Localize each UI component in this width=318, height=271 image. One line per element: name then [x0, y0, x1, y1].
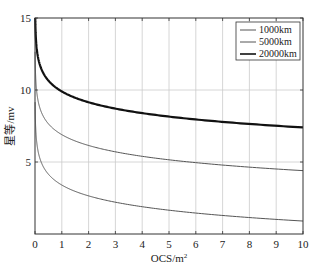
legend: 1000km 5000km 20000km: [236, 22, 300, 60]
x-tick-label: 7: [220, 238, 226, 250]
x-tick-label: 0: [32, 238, 38, 250]
chart: 012345678910 51015 OCS/m2 星等/mv 1000km 5…: [0, 0, 318, 271]
x-tick-label: 6: [193, 238, 199, 250]
x-tick-label: 3: [113, 238, 119, 250]
y-tick-label: 15: [20, 12, 32, 24]
x-tick-label: 10: [298, 238, 310, 250]
legend-label: 5000km: [259, 36, 292, 47]
x-tick-label: 9: [273, 238, 279, 250]
x-tick-label: 5: [166, 238, 172, 250]
x-tick-label: 1: [59, 238, 65, 250]
y-tick-label: 5: [26, 156, 32, 168]
y-tick-label: 10: [20, 84, 32, 96]
x-axis-title: OCS/m2: [151, 252, 188, 264]
legend-label: 1000km: [259, 24, 292, 35]
y-axis-title: 星等/mv: [3, 106, 16, 146]
x-tick-label: 8: [247, 238, 253, 250]
x-tick-label: 4: [139, 238, 145, 250]
legend-label: 20000km: [259, 48, 297, 59]
x-tick-label: 2: [86, 238, 92, 250]
